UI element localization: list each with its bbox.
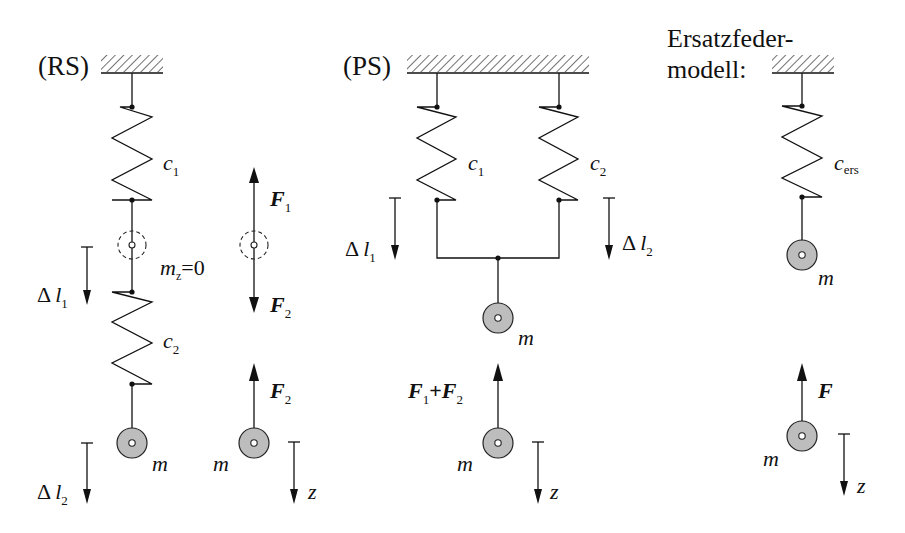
- ers-title-line2: modell:: [667, 55, 746, 84]
- ers-freebody-mass: [787, 363, 817, 451]
- rs-z-axis-arrow: [288, 442, 300, 504]
- rs-intermediate-mass-label: mz=0: [160, 255, 205, 283]
- ps-ground: [407, 55, 589, 73]
- rs-freebody-mass: [239, 363, 269, 458]
- rs-force-f2-mass-label: F2: [269, 378, 291, 407]
- rs-z-axis-label: z: [307, 479, 317, 504]
- ers-title-line1: Ersatzfeder-: [667, 24, 794, 53]
- ps-spring-2: [539, 73, 578, 203]
- rs-displacement-2-arrow: [81, 443, 93, 504]
- ers-z-axis-label: z: [856, 473, 866, 498]
- ps-panel: (PS) c1 c2 m: [343, 51, 653, 504]
- ps-spring-1: [417, 73, 456, 203]
- ers-spring-label: cers: [834, 150, 859, 177]
- rs-force-f1-label: F1: [269, 186, 291, 215]
- ers-z-axis-arrow: [838, 434, 850, 496]
- ps-spring-2-label: c2: [590, 150, 606, 179]
- rs-freebody-mass-label: m: [213, 451, 229, 476]
- ps-force-sum-label: F1+F2: [407, 378, 463, 407]
- rs-panel: (RS) c1 mz=0 c2: [37, 51, 317, 508]
- ers-panel: Ersatzfeder- modell: cers m F m: [667, 24, 866, 498]
- ps-displacement-1-arrow: [389, 198, 401, 260]
- ers-ground: [772, 55, 834, 73]
- ps-freebody-mass: [483, 363, 513, 458]
- rs-displacement-1-label: Δl1: [37, 282, 68, 311]
- ps-freebody-mass-label: m: [457, 451, 473, 476]
- rs-freebody-intermediate: [240, 167, 268, 313]
- ps-title: (PS): [343, 51, 391, 81]
- rs-spring-2-label: c2: [163, 328, 179, 357]
- ps-displacement-1-label: Δl1: [345, 236, 376, 265]
- ps-z-axis-arrow: [532, 442, 544, 504]
- rs-spring-1: [112, 73, 152, 203]
- ers-freebody-mass-label: m: [763, 446, 779, 471]
- rs-force-f2-label: F2: [269, 292, 291, 321]
- rs-title: (RS): [38, 51, 89, 81]
- ers-mass-label: m: [818, 265, 834, 290]
- ps-z-axis-label: z: [549, 479, 559, 504]
- rs-displacement-2-label: Δl2: [37, 479, 68, 508]
- rs-ground: [101, 55, 163, 73]
- ps-displacement-2-arrow: [603, 198, 615, 260]
- ps-mass: [483, 303, 513, 333]
- ers-spring: [782, 73, 822, 255]
- ers-mass: [787, 240, 817, 270]
- rs-displacement-1-arrow: [81, 247, 93, 305]
- spring-systems-diagram: (RS) c1 mz=0 c2: [0, 0, 905, 533]
- rs-spring-2: [112, 289, 152, 386]
- ps-spring-1-label: c1: [468, 150, 484, 179]
- rs-mass: [117, 428, 147, 458]
- ps-displacement-2-label: Δl2: [622, 230, 653, 259]
- rs-mass-label: m: [152, 451, 168, 476]
- ps-mass-label: m: [518, 325, 534, 350]
- ps-yoke: [437, 200, 559, 318]
- ers-force-label: F: [817, 378, 833, 403]
- rs-spring-1-label: c1: [163, 150, 179, 179]
